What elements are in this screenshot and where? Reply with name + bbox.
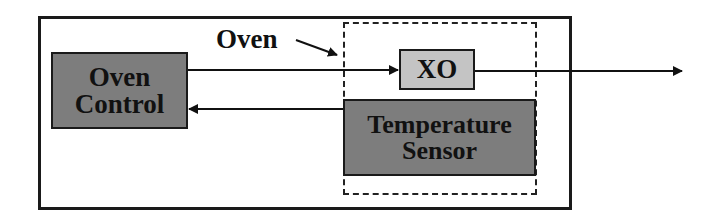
oven-pointer-arrow [296, 40, 337, 55]
connector-arrows [0, 0, 712, 224]
